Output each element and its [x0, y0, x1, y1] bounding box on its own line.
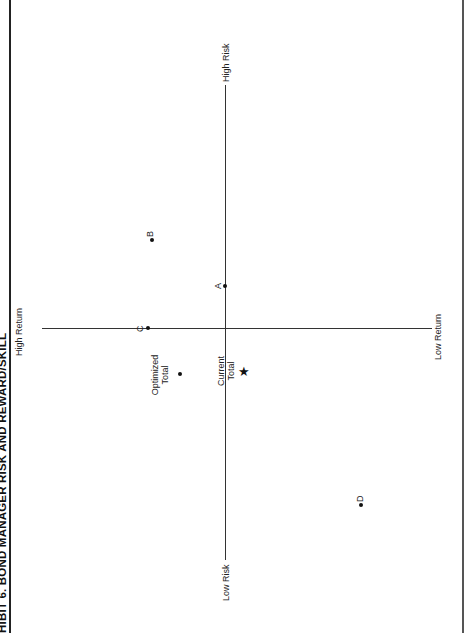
optimized-total-line1: Optimized [150, 352, 160, 398]
point-d-marker [359, 503, 363, 507]
risk-axis-line [225, 85, 226, 560]
high-risk-label: High Risk [221, 43, 231, 82]
frame-right-border [462, 0, 464, 633]
point-b-label: B [145, 231, 155, 237]
high-return-label: High Return [14, 308, 24, 356]
optimized-total-label: Optimized Total [150, 352, 170, 398]
current-total-label: Current Total [216, 351, 236, 391]
frame-left-rule [9, 0, 11, 633]
optimized-total-marker [178, 372, 182, 376]
chart-title: HIBIT 6. BOND MANAGER RISK AND REWARD/SK… [0, 333, 8, 633]
point-b-marker [150, 238, 154, 242]
point-d-label: D [355, 496, 365, 503]
current-total-line1: Current [216, 351, 226, 391]
optimized-total-line2: Total [160, 352, 170, 398]
return-axis-line [42, 328, 432, 329]
point-a-label: A [213, 283, 223, 289]
current-total-line2: Total [226, 351, 236, 391]
low-return-label: Low Return [433, 314, 443, 360]
low-risk-label: Low Risk [221, 564, 231, 601]
point-a-marker [223, 284, 227, 288]
current-total-star-icon: ★ [238, 365, 250, 378]
point-c-label: C [135, 326, 145, 333]
point-c-marker [146, 326, 150, 330]
